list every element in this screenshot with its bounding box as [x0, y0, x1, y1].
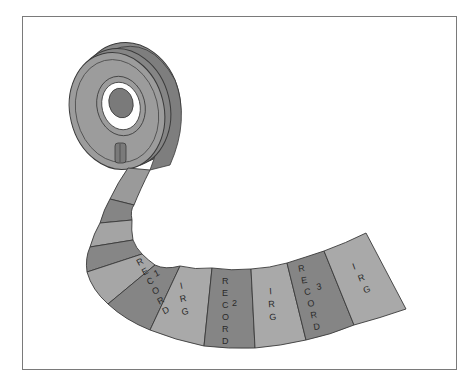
label-char: O: [222, 312, 229, 322]
label-record-number: 2: [232, 298, 237, 308]
tape-reel: [57, 32, 193, 180]
label-char: R: [268, 299, 276, 309]
label-char: C: [222, 300, 229, 310]
label-char: E: [222, 288, 228, 298]
label-record-2: R: [222, 276, 229, 286]
segment-record-2: [204, 268, 255, 348]
reel-slot-icon: [115, 143, 126, 163]
tape-diagram: R E C O R D 1 I R G R E C O R D 2 I R G: [0, 0, 474, 388]
label-char: G: [269, 312, 277, 322]
label-char: D: [222, 336, 229, 346]
label-char: R: [222, 324, 229, 334]
